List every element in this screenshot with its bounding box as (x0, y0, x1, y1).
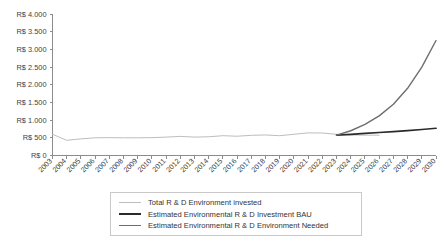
x-tick-label: 2021 (292, 157, 310, 175)
x-tick-label: 2025 (349, 157, 367, 175)
y-tick-label: R$ 500 (23, 133, 47, 142)
chart-legend: Total R & D Environment invested Estimat… (110, 192, 362, 236)
x-tick-label: 2010 (136, 157, 154, 175)
x-tick-label: 2007 (93, 157, 111, 175)
legend-swatch-total-invested (119, 202, 141, 203)
y-tick-label: R$ 1.000 (17, 116, 47, 125)
x-tick-label: 2014 (192, 157, 210, 175)
legend-label-bau: Estimated Environmental R & D Investment… (148, 210, 312, 219)
y-tick-label: R$ 1.500 (17, 98, 47, 107)
legend-item-total-invested: Total R & D Environment invested (119, 197, 355, 208)
x-tick-label: 2024 (335, 157, 353, 175)
x-tick-label: 2015 (207, 157, 225, 175)
x-tick-label: 2008 (107, 157, 125, 175)
x-tick-label: 2005 (65, 157, 83, 175)
x-tick-label: 2030 (420, 157, 438, 175)
y-axis-group: R$ 0R$ 500R$ 1.000R$ 1.500R$ 2.000R$ 2.5… (17, 10, 53, 161)
x-tick-label: 2020 (278, 157, 296, 175)
x-tick-label: 2029 (406, 157, 424, 175)
y-tick-label: R$ 3.000 (17, 45, 47, 54)
x-tick-label: 2004 (50, 157, 68, 175)
chart-container: R$ 0R$ 500R$ 1.000R$ 1.500R$ 2.000R$ 2.5… (0, 0, 446, 250)
x-tick-label: 2016 (221, 157, 239, 175)
legend-item-bau: Estimated Environmental R & D Investment… (119, 209, 355, 220)
legend-swatch-needed (119, 225, 141, 226)
legend-label-needed: Estimated Environmental R & D Environmen… (148, 221, 328, 230)
x-tick-label: 2012 (164, 157, 182, 175)
series-group (53, 41, 437, 141)
x-tick-label: 2006 (79, 157, 97, 175)
x-tick-label: 2023 (320, 157, 338, 175)
y-tick-label: R$ 2.500 (17, 63, 47, 72)
series-line-1 (337, 128, 436, 135)
x-tick-label: 2018 (249, 157, 267, 175)
x-tick-label: 2009 (121, 157, 139, 175)
series-line-2 (337, 41, 436, 136)
legend-label-total-invested: Total R & D Environment invested (148, 198, 262, 207)
y-tick-label: R$ 3.500 (17, 27, 47, 36)
x-axis-group: 2003200420052006200720082009201020112012… (36, 156, 437, 175)
x-tick-label: 2019 (263, 157, 281, 175)
x-tick-label: 2026 (363, 157, 381, 175)
y-tick-label: R$ 4.000 (17, 10, 47, 19)
y-tick-group: R$ 0R$ 500R$ 1.000R$ 1.500R$ 2.000R$ 2.5… (17, 10, 53, 161)
x-tick-label: 2013 (178, 157, 196, 175)
legend-item-needed: Estimated Environmental R & D Environmen… (119, 220, 355, 231)
x-tick-label: 2011 (150, 157, 167, 174)
legend-swatch-bau (119, 213, 141, 215)
y-tick-label: R$ 2.000 (17, 80, 47, 89)
series-line-0 (53, 133, 380, 140)
x-tick-label: 2027 (377, 157, 395, 175)
x-tick-label: 2022 (306, 157, 324, 175)
x-tick-label: 2017 (235, 157, 253, 175)
x-tick-group: 2003200420052006200720082009201020112012… (36, 156, 437, 175)
x-tick-label: 2028 (391, 157, 409, 175)
